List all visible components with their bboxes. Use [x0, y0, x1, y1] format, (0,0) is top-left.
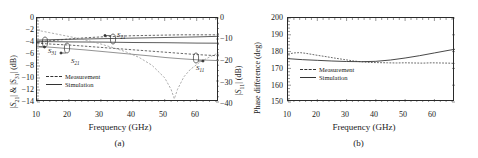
panel-a-ytick-0: 0 [12, 13, 34, 22]
panel-b-ytick-180: 180 [257, 47, 283, 56]
panel-b-svg [288, 18, 455, 102]
panel-a-legend: Measurement Simulation [46, 73, 100, 89]
panel-b-xlabel: Frequency (GHz) [279, 122, 449, 132]
panel-b-legend-item-simulation: Simulation [300, 74, 354, 82]
legend-key-solid-icon [300, 77, 316, 79]
panel-b-xticks-top [288, 18, 452, 21]
panel-a-xticks-top [37, 18, 216, 21]
panel-b-yticks-right [452, 18, 455, 102]
panel-a-legend-item-simulation: Simulation [46, 81, 100, 89]
panel-b-legend-label-measurement: Measurement [319, 66, 354, 74]
panel-a-ytick-r-0: 0 [220, 13, 238, 22]
legend-key-dashed-icon [46, 76, 62, 78]
panel-a-legend-item-measurement: Measurement [46, 73, 100, 81]
legend-key-dashed-icon [300, 69, 316, 71]
panel-a-ytick-m6: −6 [12, 49, 34, 58]
panel-a-legend-label-measurement: Measurement [65, 73, 100, 81]
panel-b-plot-area [287, 17, 454, 101]
curve-s21-simulation [37, 36, 219, 40]
panel-b-xticks-bottom [288, 99, 452, 102]
panel-b-caption: (b) [239, 138, 478, 148]
panel-a-xtick-20: 20 [60, 110, 74, 119]
panel-a-ytick-m8: −8 [12, 61, 34, 70]
panel-b-legend: Measurement Simulation [300, 66, 354, 82]
panel-a-annot-s11: S11 [196, 64, 204, 73]
panel-a-ytick-r-m40: −40 [220, 99, 240, 108]
panel-a-ytick-m4: −4 [12, 37, 34, 46]
panel-a-xticks-bottom [37, 99, 216, 102]
panel-a-legend-label-simulation: Simulation [65, 81, 94, 89]
panel-b-legend-label-simulation: Simulation [319, 74, 348, 82]
panel-b: Phase difference (deg) 200 190 180 170 1… [239, 0, 478, 158]
panel-b-xtick-50: 50 [396, 110, 410, 119]
panel-b-xtick-20: 20 [309, 110, 323, 119]
panel-a-annot-s31: S31 [48, 47, 57, 56]
panel-a-ytick-r-m10: −10 [220, 34, 240, 43]
panel-a-caption: (a) [0, 138, 239, 148]
figure-container: |S21| & |S31| (dB) |S11| (dB) 0 −2 −4 −6… [0, 0, 478, 158]
panel-a-svg [37, 18, 219, 102]
curve-phase-simulation [288, 49, 455, 61]
annot-ellipse-s11 [193, 53, 198, 63]
legend-key-solid-icon [46, 84, 62, 86]
panel-b-yticks-left [288, 18, 291, 102]
panel-b-ytick-200: 200 [257, 13, 283, 22]
panel-a-xtick-10: 10 [29, 110, 43, 119]
panel-a-xtick-30: 30 [92, 110, 106, 119]
panel-a-xtick-50: 50 [156, 110, 170, 119]
panel-a-ytick-r-m20: −20 [220, 56, 240, 65]
panel-b-ytick-160: 160 [257, 81, 283, 90]
panel-b-legend-item-measurement: Measurement [300, 66, 354, 74]
panel-b-xtick-30: 30 [338, 110, 352, 119]
panel-a-xlabel: Frequency (GHz) [35, 122, 205, 132]
panel-a-ytick-m10: −10 [8, 73, 34, 82]
panel-a-ytick-m14: −14 [8, 97, 34, 106]
panel-a-annot-s21-lower: S21 [71, 57, 80, 66]
panel-b-ytick-190: 190 [257, 30, 283, 39]
panel-b-xtick-40: 40 [367, 110, 381, 119]
panel-a-yticks-right [216, 18, 219, 102]
panel-b-ytick-170: 170 [257, 64, 283, 73]
panel-a-ytick-m12: −12 [8, 85, 34, 94]
panel-a-ytick-m2: −2 [12, 25, 34, 34]
panel-b-xtick-10: 10 [280, 110, 294, 119]
panel-b-xtick-60: 60 [425, 110, 439, 119]
panel-a-xtick-60: 60 [188, 110, 202, 119]
panel-a-ytick-r-m30: −30 [220, 78, 240, 87]
panel-a-xtick-40: 40 [124, 110, 138, 119]
panel-b-ytick-150: 150 [257, 97, 283, 106]
panel-a: |S21| & |S31| (dB) |S11| (dB) 0 −2 −4 −6… [0, 0, 239, 158]
curve-s31-simulation [37, 42, 219, 44]
panel-a-annot-s21-upper: S21 [117, 31, 126, 40]
